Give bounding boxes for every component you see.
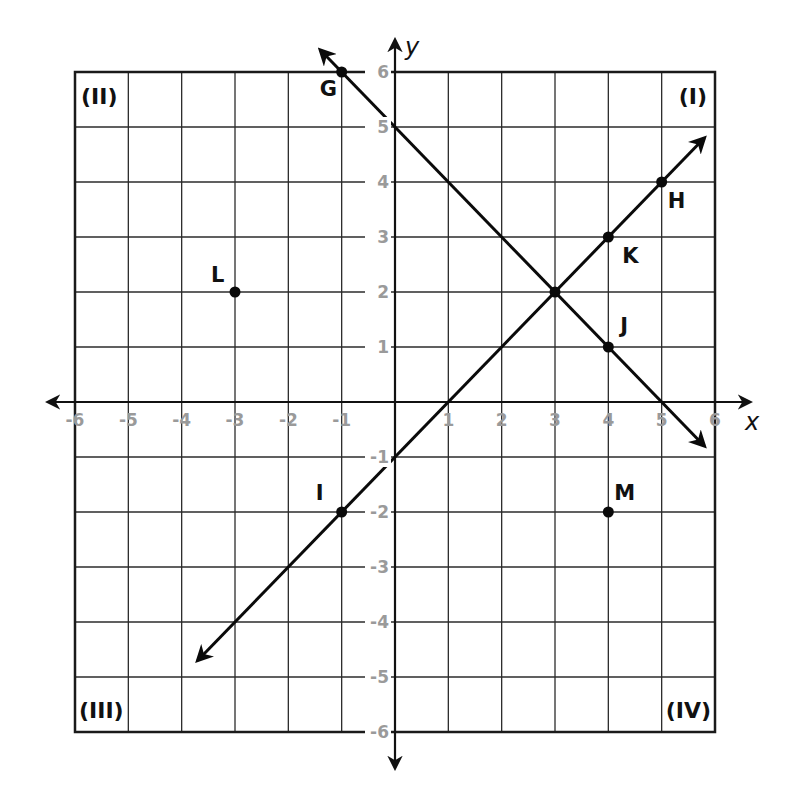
point-label-K: K bbox=[622, 244, 639, 268]
y-tick-label: 5 bbox=[377, 117, 389, 137]
quadrant-label: (I) bbox=[679, 84, 707, 109]
point-label-M: M bbox=[614, 481, 635, 505]
point-label-G: G bbox=[320, 77, 337, 101]
y-tick-label: -6 bbox=[370, 722, 389, 742]
x-tick-label: -4 bbox=[172, 410, 191, 430]
x-tick-label: -2 bbox=[279, 410, 298, 430]
x-tick-label: 3 bbox=[549, 410, 561, 430]
x-axis-label: x bbox=[744, 408, 760, 436]
quadrant-label: (III) bbox=[79, 698, 124, 723]
point-L bbox=[230, 287, 241, 298]
point-intersection bbox=[550, 287, 561, 298]
x-tick-label: 6 bbox=[709, 410, 721, 430]
point-label-J: J bbox=[618, 314, 628, 338]
x-tick-label: 1 bbox=[442, 410, 454, 430]
x-tick-label: 2 bbox=[496, 410, 508, 430]
point-I bbox=[336, 507, 347, 518]
point-M bbox=[603, 507, 614, 518]
point-label-L: L bbox=[211, 263, 224, 287]
plotted-line-1 bbox=[198, 138, 705, 661]
y-tick-label: 6 bbox=[377, 62, 389, 82]
point-label-H: H bbox=[668, 189, 686, 213]
point-J bbox=[603, 342, 614, 353]
point-H bbox=[656, 177, 667, 188]
x-tick-label: -1 bbox=[332, 410, 351, 430]
plotted-lines bbox=[198, 50, 705, 661]
axes bbox=[48, 40, 750, 768]
x-tick-label: 5 bbox=[656, 410, 668, 430]
y-tick-label: -1 bbox=[370, 447, 389, 467]
point-G bbox=[336, 67, 347, 78]
y-tick-label: -4 bbox=[370, 612, 389, 632]
quadrant-label: (II) bbox=[81, 84, 117, 109]
coordinate-plane: -6-5-4-3-2-1123456654321-1-2-3-4-5-6xyGH… bbox=[0, 0, 794, 794]
x-tick-label: -3 bbox=[226, 410, 245, 430]
y-tick-label: 3 bbox=[377, 227, 389, 247]
y-tick-label: 2 bbox=[377, 282, 389, 302]
y-tick-label: -3 bbox=[370, 557, 389, 577]
y-tick-label: 1 bbox=[377, 337, 389, 357]
x-tick-label: 4 bbox=[602, 410, 614, 430]
labels: -6-5-4-3-2-1123456654321-1-2-3-4-5-6xyGH… bbox=[66, 33, 760, 742]
y-tick-label: 4 bbox=[377, 172, 389, 192]
point-label-I: I bbox=[316, 481, 324, 505]
y-tick-label: -2 bbox=[370, 502, 389, 522]
y-axis-label: y bbox=[404, 33, 420, 61]
y-tick-label: -5 bbox=[370, 667, 389, 687]
x-tick-label: -5 bbox=[119, 410, 138, 430]
point-K bbox=[603, 232, 614, 243]
plotted-line-2 bbox=[320, 50, 704, 446]
quadrant-label: (IV) bbox=[666, 698, 711, 723]
x-tick-label: -6 bbox=[66, 410, 85, 430]
